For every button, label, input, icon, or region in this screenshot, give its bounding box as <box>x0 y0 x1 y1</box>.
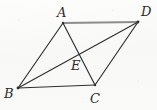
vertex-point-b <box>17 87 20 90</box>
vertex-point-a <box>62 22 64 24</box>
segment-cd-line <box>95 22 138 85</box>
vertex-label-c: C <box>90 92 100 105</box>
vertex-point-d <box>137 21 140 24</box>
geometry-figure: A D E B C <box>0 0 157 110</box>
vertex-label-d: D <box>141 5 151 18</box>
vertex-label-e: E <box>71 59 81 72</box>
segment-ab-line <box>18 23 63 88</box>
vertex-label-b: B <box>4 87 14 100</box>
segment-bc-line <box>18 85 95 88</box>
diagram-canvas <box>0 0 157 110</box>
vertex-point-c <box>94 84 96 86</box>
vertex-label-a: A <box>57 6 66 19</box>
diagonal-bd-line <box>18 22 138 88</box>
segment-ad-line <box>63 22 138 23</box>
